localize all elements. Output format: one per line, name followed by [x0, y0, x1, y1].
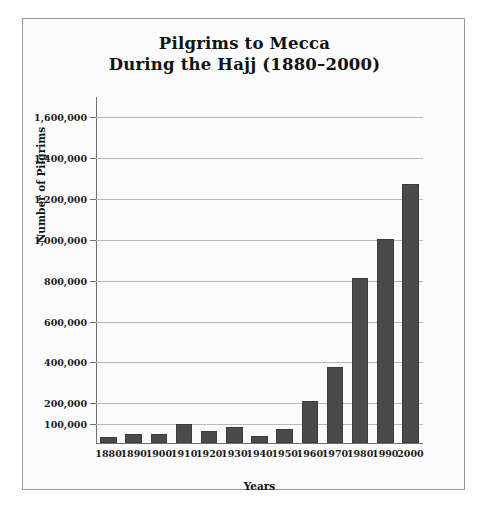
x-axis-line — [96, 443, 423, 444]
y-axis-tick-mark — [90, 362, 96, 363]
y-axis-tick-mark — [90, 322, 96, 323]
gridline — [96, 117, 423, 118]
x-axis-label: Years — [96, 480, 423, 492]
bar — [402, 184, 419, 443]
x-axis-tick-label: 1970 — [322, 448, 348, 459]
x-axis-tick-label: 1920 — [196, 448, 222, 459]
x-axis-tick-label: 2000 — [397, 448, 423, 459]
gridline — [96, 158, 423, 159]
chart-title-line-1: Pilgrims to Mecca — [23, 33, 466, 54]
bar — [251, 436, 268, 443]
gridline — [96, 362, 423, 363]
bar — [226, 427, 243, 443]
gridline — [96, 403, 423, 404]
bar — [125, 434, 142, 443]
chart-figure: Pilgrims to Mecca During the Hajj (1880–… — [22, 18, 465, 490]
bar — [276, 429, 293, 443]
y-axis-tick-mark — [90, 281, 96, 282]
gridline — [96, 199, 423, 200]
x-axis-tick-label: 1960 — [297, 448, 323, 459]
bar — [176, 424, 193, 443]
y-axis-tick-label: 1,200,000 — [34, 194, 87, 205]
y-axis-tick-label: 800,000 — [44, 275, 87, 286]
y-axis-tick-mark — [90, 403, 96, 404]
y-axis-line — [96, 97, 97, 444]
y-axis-tick-mark — [90, 424, 96, 425]
x-axis-tick-label: 1900 — [146, 448, 172, 459]
y-axis-tick-label: 1,000,000 — [34, 234, 87, 245]
x-axis-tick-label: 1930 — [221, 448, 247, 459]
gridline — [96, 322, 423, 323]
y-axis-tick-label: 400,000 — [44, 357, 87, 368]
gridline — [96, 281, 423, 282]
y-axis-tick-mark — [90, 240, 96, 241]
y-axis-tick-mark — [90, 199, 96, 200]
bar — [151, 434, 168, 443]
y-axis-tick-label: 1,400,000 — [34, 153, 87, 164]
x-axis-tick-label: 1990 — [372, 448, 398, 459]
x-axis-tick-label: 1910 — [171, 448, 197, 459]
bar — [352, 278, 369, 443]
bar — [302, 401, 319, 443]
y-axis-tick-label: 600,000 — [44, 316, 87, 327]
y-axis-tick-mark — [90, 117, 96, 118]
bar — [327, 367, 344, 443]
y-axis-tick-label: 100,000 — [44, 418, 87, 429]
chart-title: Pilgrims to Mecca During the Hajj (1880–… — [23, 33, 466, 75]
chart-title-line-2: During the Hajj (1880–2000) — [23, 54, 466, 75]
y-axis-tick-label: 200,000 — [44, 398, 87, 409]
bar — [201, 431, 218, 443]
y-axis-tick-label: 1,600,000 — [34, 112, 87, 123]
x-axis-tick-label: 1940 — [246, 448, 272, 459]
bar — [100, 437, 117, 443]
x-axis-tick-label: 1890 — [120, 448, 146, 459]
gridline — [96, 240, 423, 241]
bar — [377, 239, 394, 443]
x-axis-tick-label: 1880 — [95, 448, 121, 459]
gridline — [96, 424, 423, 425]
x-axis-tick-label: 1950 — [271, 448, 297, 459]
y-axis-tick-mark — [90, 158, 96, 159]
plot-area: 1,600,0001,400,0001,200,0001,000,000800,… — [96, 97, 423, 444]
x-axis-tick-label: 1980 — [347, 448, 373, 459]
